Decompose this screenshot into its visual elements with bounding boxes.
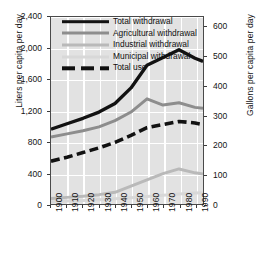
y-tickmark-right [204, 116, 207, 117]
legend-swatch [62, 55, 109, 58]
x-tick-label: 1960 [151, 193, 161, 212]
y-tick-label-right: 100 [213, 171, 227, 180]
legend-item: Agricultural withdrawal [62, 28, 204, 40]
y-tickmark-right [204, 86, 207, 87]
x-axis-ticks: 1900191019201930194019501960197019801990 [0, 208, 268, 253]
y-tick-label-left: 400 [28, 169, 42, 178]
legend-label: Municipal withdrawal [113, 51, 190, 63]
chart-legend: Total withdrawalAgricultural withdrawalI… [62, 16, 204, 74]
legend-swatch [62, 20, 109, 24]
y-tick-label-left: 1,600 [21, 75, 42, 84]
x-tick-label: 1910 [70, 193, 80, 212]
y-tickmark-right [204, 145, 207, 146]
x-tick-label: 1920 [86, 193, 96, 212]
y-tickmark-right [204, 175, 207, 176]
series-line [51, 99, 203, 137]
legend-swatch [62, 66, 109, 69]
y-tick-label-left: 2,400 [21, 12, 42, 21]
y-tick-label-right: 200 [213, 141, 227, 150]
series-line [51, 121, 203, 161]
legend-item: Industrial withdrawal [62, 39, 204, 51]
legend-label: Industrial withdrawal [113, 39, 189, 51]
x-tick-label: 1970 [167, 193, 177, 212]
legend-swatch [62, 43, 109, 46]
x-tick-label: 1900 [54, 193, 64, 212]
legend-label: Total use [113, 62, 147, 74]
y-tick-label-right: 400 [213, 82, 227, 91]
y-axis-label-right: Gallons per capita per day [245, 0, 255, 130]
legend-label: Agricultural withdrawal [113, 28, 197, 40]
y-tick-label-left: 1,200 [21, 106, 42, 115]
x-tick-label: 1950 [135, 193, 145, 212]
legend-swatch [62, 32, 109, 35]
legend-item: Total use [62, 62, 204, 74]
legend-label: Total withdrawal [113, 16, 173, 28]
x-tick-label: 1940 [119, 193, 129, 212]
y-tick-label-left: 2,000 [21, 43, 42, 52]
y-tick-label-right: 600 [213, 22, 227, 31]
legend-item: Total withdrawal [62, 16, 204, 28]
y-tickmark-right [204, 26, 207, 27]
y-tick-label-left: 800 [28, 138, 42, 147]
y-tick-label-right: 300 [213, 111, 227, 120]
x-tick-label: 1930 [103, 193, 113, 212]
x-tick-label: 1990 [200, 193, 210, 212]
y-tickmark-right [204, 56, 207, 57]
y-tick-label-right: 500 [213, 52, 227, 61]
legend-item: Municipal withdrawal [62, 51, 204, 63]
water-use-chart-figure: Liters per capita per day Gallons per ca… [0, 0, 268, 255]
x-tick-label: 1980 [184, 193, 194, 212]
